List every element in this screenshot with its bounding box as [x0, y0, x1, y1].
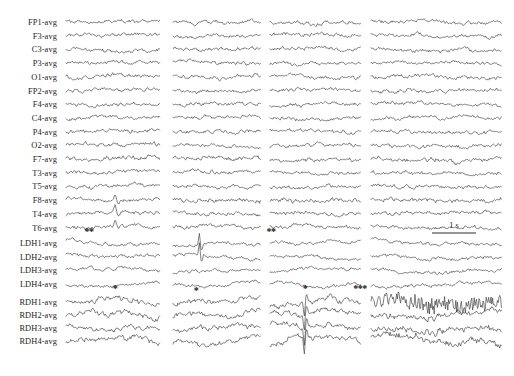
scalp-col3-marker: ** [267, 226, 276, 237]
trace-t3-avg-col4 [371, 171, 501, 176]
trace-rdh3-avg-col1 [66, 324, 160, 332]
channel-label-t4-avg: T4-avg [0, 209, 57, 218]
ldh-col1-marker: * [113, 283, 118, 294]
channel-label-fp1-avg: FP1-avg [0, 18, 57, 27]
ldh-col2-marker: * [194, 285, 199, 296]
trace-fp1-avg-col2 [173, 19, 260, 26]
trace-t5-avg-col2 [173, 184, 260, 189]
trace-f7-avg-col2 [173, 156, 260, 161]
trace-rdh4-avg-col4 [371, 332, 501, 349]
trace-c4-avg-col4 [371, 115, 501, 121]
trace-ldh1-avg-col2 [173, 233, 260, 249]
ldh-col4-marker: *** [353, 283, 367, 294]
trace-rdh3-avg-col2 [173, 322, 260, 332]
trace-t4-avg-col4 [371, 210, 501, 216]
trace-f4-avg-col1 [66, 102, 160, 108]
trace-f4-avg-col4 [371, 101, 501, 107]
trace-f3-avg-col4 [371, 32, 501, 40]
trace-f7-avg-col4 [371, 156, 501, 165]
trace-p3-avg-col1 [66, 60, 160, 65]
trace-fp2-avg-col2 [173, 89, 260, 94]
trace-f7-avg-col3 [270, 158, 360, 162]
trace-ldh2-avg-col3 [270, 255, 360, 261]
channel-label-o1-avg: O1-avg [0, 72, 57, 81]
channel-label-c3-avg: C3-avg [0, 45, 57, 54]
trace-t4-avg-col1 [66, 205, 160, 216]
trace-o2-avg-col4 [371, 143, 501, 149]
trace-f4-avg-col3 [270, 101, 360, 107]
trace-o1-avg-col4 [371, 74, 501, 80]
trace-f8-avg-col4 [371, 197, 501, 203]
scale-bar-label: 1 s [449, 221, 459, 230]
trace-t4-avg-col2 [173, 210, 260, 216]
channel-label-rdh3-avg: RDH3-avg [0, 324, 57, 333]
trace-rdh2-avg-col1 [66, 308, 160, 321]
trace-c4-avg-col2 [173, 114, 260, 119]
channel-label-ldh1-avg: LDH1-avg [0, 239, 57, 248]
trace-o2-avg-col2 [173, 143, 260, 148]
trace-p3-avg-col4 [371, 60, 501, 66]
channel-label-t5-avg: T5-avg [0, 182, 57, 191]
trace-f8-avg-col1 [66, 195, 160, 204]
trace-o2-avg-col1 [66, 141, 160, 147]
trace-f3-avg-col3 [270, 32, 360, 38]
trace-f3-avg-col2 [173, 34, 260, 39]
ldh-col3-marker: * [303, 283, 308, 294]
trace-o2-avg-col3 [270, 142, 360, 148]
trace-c3-avg-col3 [270, 46, 360, 52]
channel-label-rdh4-avg: RDH4-avg [0, 337, 57, 346]
trace-rdh4-avg-col1 [66, 335, 160, 346]
channel-label-f8-avg: F8-avg [0, 196, 57, 205]
channel-label-f4-avg: F4-avg [0, 100, 57, 109]
channel-label-c4-avg: C4-avg [0, 113, 57, 122]
scalp-col1-marker: ** [85, 226, 94, 237]
trace-fp1-avg-col4 [371, 19, 501, 26]
channel-label-ldh4-avg: LDH4-avg [0, 280, 57, 289]
trace-p4-avg-col2 [173, 129, 260, 135]
trace-t3-avg-col1 [66, 169, 160, 175]
trace-f3-avg-col1 [66, 33, 160, 38]
trace-rdh2-avg-col4 [371, 307, 501, 322]
trace-p3-avg-col2 [173, 59, 260, 66]
trace-c3-avg-col2 [173, 46, 260, 51]
trace-t6-avg-col3 [270, 223, 360, 229]
channel-label-rdh2-avg: RDH2-avg [0, 311, 57, 320]
trace-ldh2-avg-col1 [66, 253, 160, 258]
trace-ldh1-avg-col4 [371, 237, 501, 246]
trace-rdh3-avg-col3 [270, 319, 360, 346]
trace-p4-avg-col3 [270, 129, 360, 135]
trace-t6-avg-col2 [173, 224, 260, 230]
trace-p3-avg-col3 [270, 61, 360, 66]
trace-rdh4-avg-col3 [270, 330, 360, 354]
eeg-figure: FP1-avgF3-avgC3-avgP3-avgO1-avgFP2-avgF4… [0, 0, 514, 376]
channel-label-f7-avg: F7-avg [0, 155, 57, 164]
channel-label-ldh2-avg: LDH2-avg [0, 252, 57, 261]
trace-ldh3-avg-col4 [371, 268, 501, 275]
trace-fp2-avg-col3 [270, 87, 360, 92]
channel-label-rdh1-avg: RDH1-avg [0, 298, 57, 307]
trace-fp1-avg-col1 [66, 19, 160, 23]
trace-t5-avg-col3 [270, 184, 360, 190]
trace-t6-avg-col4 [371, 225, 501, 231]
trace-ldh3-avg-col1 [66, 266, 160, 272]
eeg-traces-canvas [0, 0, 514, 376]
trace-t3-avg-col3 [270, 171, 360, 176]
trace-rdh4-avg-col2 [173, 334, 260, 347]
channel-label-t3-avg: T3-avg [0, 168, 57, 177]
trace-c3-avg-col1 [66, 47, 160, 53]
trace-fp1-avg-col3 [270, 20, 360, 26]
channel-label-t6-avg: T6-avg [0, 223, 57, 232]
trace-t5-avg-col4 [371, 184, 501, 190]
trace-ldh2-avg-col4 [371, 254, 501, 261]
trace-ldh1-avg-col1 [66, 237, 160, 246]
trace-rdh2-avg-col2 [173, 308, 260, 319]
trace-c4-avg-col3 [270, 116, 360, 121]
trace-f4-avg-col2 [173, 102, 260, 107]
trace-ldh4-avg-col2 [173, 280, 260, 288]
trace-fp2-avg-col1 [66, 88, 160, 94]
trace-ldh1-avg-col3 [270, 240, 360, 246]
trace-ldh4-avg-col3 [270, 281, 360, 290]
channel-label-f3-avg: F3-avg [0, 31, 57, 40]
channel-label-p3-avg: P3-avg [0, 59, 57, 68]
trace-o1-avg-col1 [66, 73, 160, 80]
